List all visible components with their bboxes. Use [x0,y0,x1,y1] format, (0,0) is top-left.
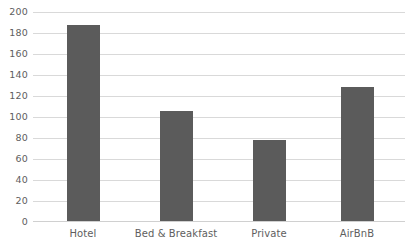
bar-private[interactable] [253,140,286,222]
x-axis: Hotel Bed & Breakfast Private AirBnB [33,227,405,247]
bar-airbnb[interactable] [341,87,374,221]
y-axis-tick-label: 40 [0,174,28,185]
bar-hotel[interactable] [67,25,100,221]
x-axis-tick-label: Private [219,227,319,241]
x-axis-tick-label: Bed & Breakfast [126,227,226,241]
y-axis-tick-label: 60 [0,153,28,164]
y-axis-tick-label: 80 [0,132,28,143]
y-axis-tick-label: 120 [0,90,28,101]
gridline [33,12,405,13]
y-axis-tick-label: 0 [0,216,28,227]
y-axis-tick-label: 160 [0,48,28,59]
x-axis-tick-label: AirBnB [307,227,407,241]
bar-bed-and-breakfast[interactable] [160,111,193,221]
y-axis-tick-label: 140 [0,69,28,80]
bar-chart: 200 180 160 140 120 100 80 60 40 20 0 Ho… [0,0,412,252]
y-axis: 200 180 160 140 120 100 80 60 40 20 0 [0,12,28,222]
y-axis-tick-label: 200 [0,6,28,17]
y-axis-tick-label: 20 [0,195,28,206]
x-axis-tick-label: Hotel [33,227,133,241]
x-axis-baseline [33,221,405,222]
y-axis-tick-label: 100 [0,111,28,122]
plot-area [33,12,405,222]
y-axis-tick-label: 180 [0,27,28,38]
